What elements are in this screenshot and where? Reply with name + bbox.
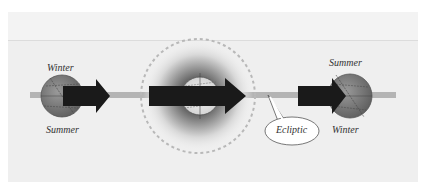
label-left-summer: Summer [46,124,79,135]
label-right-summer: Summer [329,57,362,68]
label-left-winter: Winter [47,62,74,73]
label-right-winter: Winter [332,124,359,135]
orbit-diagram [0,0,426,191]
label-ecliptic: Ecliptic [276,124,307,135]
